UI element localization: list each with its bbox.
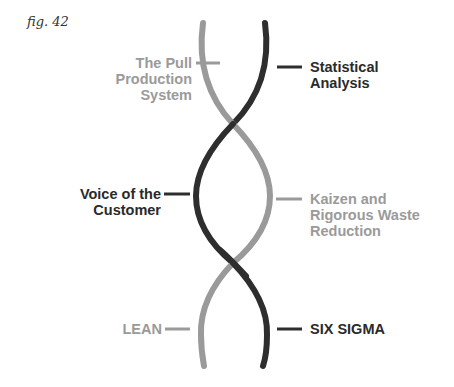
label-line: System [115, 87, 192, 103]
label-line: Production [115, 71, 192, 87]
label-line: Statistical [310, 59, 379, 75]
label-kaizen-waste-reduction: Kaizen and Rigorous Waste Reduction [310, 191, 420, 239]
label-line: SIX SIGMA [310, 321, 385, 337]
label-voice-of-the-customer: Voice of the Customer [80, 186, 161, 218]
label-line: Customer [80, 202, 161, 218]
label-line: Voice of the [80, 186, 161, 202]
label-lean: LEAN [123, 321, 162, 337]
label-line: LEAN [123, 321, 162, 337]
label-line: Kaizen and [310, 191, 420, 207]
label-statistical-analysis: Statistical Analysis [310, 59, 379, 91]
six-sigma-strand-top [233, 23, 266, 124]
label-line: The Pull [115, 55, 192, 71]
label-line: Reduction [310, 223, 420, 239]
six-sigma-strand-mid [196, 124, 233, 263]
lean-strand-bottom [201, 263, 233, 366]
label-line: Analysis [310, 75, 379, 91]
label-pull-production-system: The Pull Production System [115, 55, 192, 103]
label-six-sigma: SIX SIGMA [310, 321, 385, 337]
label-line: Rigorous Waste [310, 207, 420, 223]
six-sigma-strand-bottom [233, 263, 267, 366]
lean-strand-top [202, 23, 270, 263]
